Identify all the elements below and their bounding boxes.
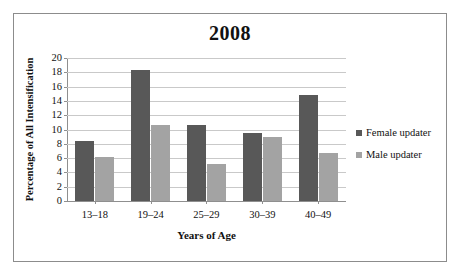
x-axis-title: Years of Age bbox=[67, 229, 346, 241]
y-axis-tick-label: 18 bbox=[52, 67, 63, 78]
y-axis-tick-label: 12 bbox=[52, 110, 63, 121]
x-axis-tick-label: 13–18 bbox=[67, 209, 123, 220]
x-axis-tick-label: 25–29 bbox=[179, 209, 235, 220]
y-axis-tick-label: 4 bbox=[57, 167, 62, 178]
bar-group: 40–49 bbox=[290, 58, 346, 201]
y-axis-tick-label: 14 bbox=[52, 96, 63, 107]
x-axis-tick-mark bbox=[206, 201, 207, 204]
bar-group: 19–24 bbox=[123, 58, 179, 201]
bar-group: 30–39 bbox=[234, 58, 290, 201]
legend-swatch-icon bbox=[356, 130, 362, 136]
legend-label: Female updater bbox=[366, 127, 431, 138]
plot-area: 20181614121086420 13–1819–2425–2930–3940… bbox=[67, 58, 346, 201]
y-axis-tick-label: 0 bbox=[57, 196, 62, 207]
x-axis-tick-mark bbox=[262, 201, 263, 204]
bar-female[interactable] bbox=[75, 141, 94, 201]
bar-male[interactable] bbox=[207, 164, 226, 201]
bar-male[interactable] bbox=[151, 125, 170, 201]
y-axis-tick-label: 2 bbox=[57, 181, 62, 192]
bar-female[interactable] bbox=[131, 70, 150, 201]
x-axis-tick-label: 40–49 bbox=[290, 209, 346, 220]
y-axis-tick-mark bbox=[64, 201, 67, 202]
legend-item[interactable]: Female updater bbox=[356, 127, 446, 138]
y-axis-tick-label: 8 bbox=[57, 139, 62, 150]
bar-group: 25–29 bbox=[179, 58, 235, 201]
chart-title: 2008 bbox=[14, 22, 446, 45]
bar-male[interactable] bbox=[263, 137, 282, 201]
bar-male[interactable] bbox=[95, 157, 114, 201]
y-axis-tick-label: 16 bbox=[52, 81, 63, 92]
bar-female[interactable] bbox=[243, 133, 262, 201]
x-axis-tick-mark bbox=[95, 201, 96, 204]
y-axis-tick-label: 20 bbox=[52, 53, 63, 64]
bar-group: 13–18 bbox=[67, 58, 123, 201]
chart-legend: Female updaterMale updater bbox=[356, 127, 446, 171]
legend-swatch-icon bbox=[356, 152, 362, 158]
legend-item[interactable]: Male updater bbox=[356, 149, 446, 160]
legend-label: Male updater bbox=[366, 149, 422, 160]
y-axis-tick-label: 10 bbox=[52, 124, 63, 135]
y-axis-title-text: Percentage of All Intensification bbox=[25, 57, 36, 201]
x-axis-tick-mark bbox=[151, 201, 152, 204]
bar-groups: 13–1819–2425–2930–3940–49 bbox=[67, 58, 346, 201]
y-axis-tick-label: 6 bbox=[57, 153, 62, 164]
bar-female[interactable] bbox=[187, 125, 206, 201]
bar-male[interactable] bbox=[319, 153, 338, 201]
x-axis-tick-label: 30–39 bbox=[234, 209, 290, 220]
y-axis-title: Percentage of All Intensification bbox=[22, 44, 38, 214]
x-axis-tick-mark bbox=[318, 201, 319, 204]
x-axis-tick-label: 19–24 bbox=[123, 209, 179, 220]
chart-figure: 2008 Percentage of All Intensification 2… bbox=[13, 13, 447, 262]
bar-female[interactable] bbox=[299, 95, 318, 201]
